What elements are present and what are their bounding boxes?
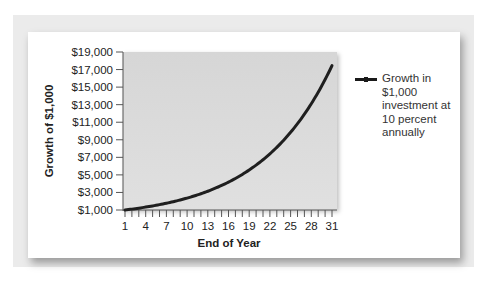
x-axis-title: End of Year bbox=[197, 237, 261, 249]
y-tick-label: $17,000 bbox=[71, 64, 113, 76]
y-tick-label: $5,000 bbox=[78, 169, 113, 181]
y-tick-label: $9,000 bbox=[78, 134, 113, 146]
y-tick-label: $11,000 bbox=[72, 116, 113, 128]
x-tick-label: 13 bbox=[201, 220, 214, 232]
y-tick-label: $3,000 bbox=[78, 186, 113, 198]
x-tick-label: 19 bbox=[243, 220, 256, 232]
y-axis: $19,000$17,000$15,000$13,000$11,000$9,00… bbox=[71, 46, 123, 216]
line-chart: $19,000$17,000$15,000$13,000$11,000$9,00… bbox=[0, 0, 484, 287]
x-tick-label: 1 bbox=[122, 220, 128, 232]
x-tick-label: 25 bbox=[284, 220, 297, 232]
x-tick-label: 31 bbox=[326, 220, 339, 232]
y-axis-title: Growth of $1,000 bbox=[43, 85, 55, 178]
x-tick-label: 4 bbox=[142, 220, 149, 232]
x-tick-label: 22 bbox=[264, 220, 277, 232]
x-tick-label: 16 bbox=[222, 220, 235, 232]
y-tick-label: $19,000 bbox=[71, 46, 113, 58]
y-tick-label: $13,000 bbox=[71, 99, 113, 111]
x-tick-label: 28 bbox=[305, 220, 318, 232]
legend-line-icon bbox=[355, 78, 377, 81]
plot-area bbox=[123, 52, 337, 210]
x-axis: 1471013161922252831 bbox=[122, 210, 339, 232]
y-tick-label: $7,000 bbox=[78, 151, 113, 163]
x-tick-label: 7 bbox=[163, 220, 169, 232]
y-tick-label: $1,000 bbox=[78, 204, 113, 216]
x-tick-label: 10 bbox=[181, 220, 194, 232]
y-tick-label: $15,000 bbox=[71, 81, 113, 93]
legend-label: Growth in $1,000 investment at 10 percen… bbox=[382, 72, 450, 140]
